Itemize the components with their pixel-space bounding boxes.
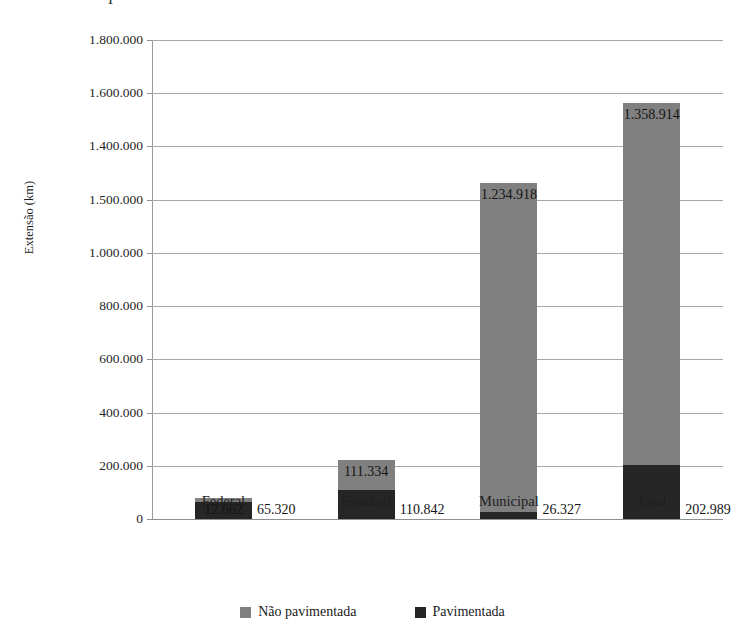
- legend-label: Não pavimentada: [258, 604, 356, 620]
- bar-stack[interactable]: 12.66265.320: [195, 40, 252, 519]
- y-axis-tick-label: 1.600.000: [89, 85, 143, 101]
- y-axis-tick-label: 0: [136, 511, 143, 527]
- bar-segment-nao-pavimentada[interactable]: [623, 103, 680, 465]
- bar-value-label-pavimentada: 26.327: [542, 502, 581, 518]
- gridline: [152, 519, 723, 520]
- x-axis-label-municipal: Municipal: [479, 493, 539, 510]
- bar-segment-pavimentada[interactable]: [623, 465, 680, 519]
- bar-stack[interactable]: 1.358.914202.989: [623, 40, 680, 519]
- legend-item[interactable]: Não pavimentada: [240, 604, 356, 620]
- bar-value-label-nao-pavimentada: 1.358.914: [624, 107, 680, 123]
- bar-segment-pavimentada[interactable]: [480, 512, 537, 519]
- y-axis-tick-label: 400.000: [99, 405, 143, 421]
- y-axis-line: [152, 40, 153, 519]
- y-axis-title: Extensão (km): [22, 153, 37, 283]
- chart-legend: Não pavimentadaPavimentada: [0, 604, 745, 620]
- chart-figure: I Extensão (km) 0200.000400.000600.00080…: [0, 0, 745, 644]
- y-axis-tick-mark: [147, 40, 152, 41]
- cropped-title-remnant: I: [108, 0, 114, 8]
- y-axis-tick-label: 200.000: [99, 458, 143, 474]
- y-axis-tick-label: 800.000: [99, 298, 143, 314]
- y-axis-tick-label: 1.800.000: [89, 32, 143, 48]
- bar-segment-nao-pavimentada[interactable]: [480, 183, 537, 512]
- x-axis-label-total: Total: [637, 493, 667, 510]
- y-axis-tick-mark: [147, 413, 152, 414]
- y-axis-tick-label: 1.500.000: [89, 192, 143, 208]
- bar-value-label-nao-pavimentada: 1.234.918: [481, 187, 537, 203]
- legend-swatch-icon: [415, 607, 426, 618]
- y-axis-tick-label: 1.400.000: [89, 138, 143, 154]
- y-axis-tick-mark: [147, 146, 152, 147]
- bar-value-label-pavimentada: 202.989: [685, 502, 731, 518]
- plot-area: 0200.000400.000600.000800.0001.000.0001.…: [152, 40, 723, 519]
- y-axis-tick-mark: [147, 359, 152, 360]
- bar-value-label-pavimentada: 65.320: [257, 502, 296, 518]
- y-axis-tick-mark: [147, 519, 152, 520]
- x-axis-label-federal: Federal: [202, 493, 245, 510]
- legend-label: Pavimentada: [433, 604, 505, 620]
- legend-swatch-icon: [240, 607, 251, 618]
- y-axis-tick-mark: [147, 93, 152, 94]
- y-axis-tick-label: 1.000.000: [89, 245, 143, 261]
- y-axis-tick-label: 600.000: [99, 351, 143, 367]
- legend-item[interactable]: Pavimentada: [415, 604, 505, 620]
- bar-stack[interactable]: 111.334110.842: [338, 40, 395, 519]
- y-axis-tick-mark: [147, 466, 152, 467]
- y-axis-tick-mark: [147, 253, 152, 254]
- bar-value-label-nao-pavimentada: 111.334: [344, 464, 388, 480]
- y-axis-tick-mark: [147, 200, 152, 201]
- x-axis-label-estadual: Estadual: [341, 493, 391, 510]
- bar-value-label-pavimentada: 110.842: [400, 502, 445, 518]
- y-axis-tick-mark: [147, 306, 152, 307]
- bar-stack[interactable]: 1.234.91826.327: [480, 40, 537, 519]
